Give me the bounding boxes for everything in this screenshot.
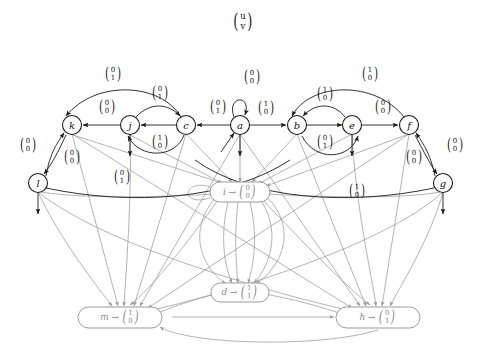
paren-left: ( (123, 310, 127, 324)
arrow-glyph: → (368, 312, 376, 322)
node-label-g: g (440, 178, 446, 189)
node-label-c: c (183, 120, 189, 131)
node-i-output-top: 0 (245, 184, 249, 192)
node-m-output-bottom: 0 (128, 317, 132, 325)
paren-right: ) (253, 285, 257, 299)
automaton-diagram: ( u v ) (0, 0, 480, 353)
arrow-glyph: → (111, 312, 119, 322)
node-d-output-top: 1 (247, 284, 251, 292)
paren-left: ( (379, 310, 383, 324)
node-label-k: k (69, 120, 75, 131)
node-h-output-bottom: 1 (385, 317, 389, 325)
node-label-d: d → ( 1 1 ) (222, 284, 259, 301)
node-label-l: l (36, 178, 39, 189)
node-d-id: d (222, 287, 228, 297)
paren-right: ) (391, 310, 395, 324)
node-h-id: h (360, 312, 366, 322)
node-label-e: e (349, 120, 355, 131)
node-label-h: h → ( 0 1 ) (360, 309, 397, 326)
paren-left: ( (241, 285, 245, 299)
node-m-output-top: 1 (128, 309, 132, 317)
arrow-glyph: → (228, 187, 236, 197)
paren-right: ) (134, 310, 138, 324)
paren-left: ( (240, 185, 244, 199)
node-d-output-bottom: 1 (247, 292, 251, 300)
arrow-glyph: → (230, 287, 238, 297)
node-i-id: i (223, 187, 226, 197)
paren-right: ) (252, 185, 256, 199)
node-label-i: i → ( 0 0 ) (223, 184, 257, 201)
node-m-id: m (100, 312, 109, 322)
node-label-a: a (237, 120, 243, 131)
node-label-b: b (294, 120, 300, 131)
node-label-j: j (128, 120, 131, 131)
node-label-m: m → ( 1 0 ) (100, 309, 140, 326)
node-label-f: f (407, 120, 411, 131)
node-h-output-top: 0 (385, 309, 389, 317)
node-i-output-bottom: 0 (245, 192, 249, 200)
